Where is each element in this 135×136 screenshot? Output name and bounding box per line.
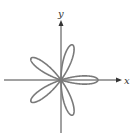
y-axis-label: y	[57, 8, 64, 19]
x-axis-label: x	[124, 75, 130, 86]
y-axis-arrow-icon	[59, 20, 64, 26]
rose-curve-diagram: x y	[0, 0, 135, 136]
x-axis-arrow-icon	[116, 78, 122, 83]
